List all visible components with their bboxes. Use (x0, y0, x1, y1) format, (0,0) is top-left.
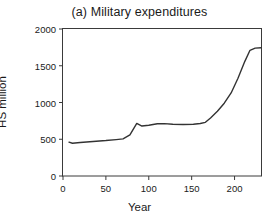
x-axis-ticks (63, 176, 235, 180)
data-series-group (69, 48, 261, 144)
x-tick-label: 0 (60, 183, 65, 194)
y-tick-label: 0 (20, 171, 56, 182)
x-tick-label: 150 (184, 183, 200, 194)
plot-frame (63, 29, 262, 177)
y-tick-label: 2000 (20, 24, 56, 35)
chart-figure: (a) Military expenditures HS million Yea… (0, 0, 279, 224)
y-tick-label: 1500 (20, 60, 56, 71)
line-series-military-expenditures (69, 48, 261, 144)
axes-frame (63, 29, 262, 177)
y-tick-label: 500 (20, 134, 56, 145)
x-tick-label: 50 (101, 183, 112, 194)
x-tick-label: 200 (227, 183, 243, 194)
y-tick-label: 1000 (20, 97, 56, 108)
x-tick-label: 100 (141, 183, 157, 194)
